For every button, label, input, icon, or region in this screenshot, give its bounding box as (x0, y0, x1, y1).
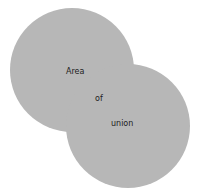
label-union: union (111, 120, 133, 128)
label-area: Area (66, 68, 84, 76)
label-of: of (95, 95, 103, 103)
union-diagram: Area of union (0, 0, 199, 194)
